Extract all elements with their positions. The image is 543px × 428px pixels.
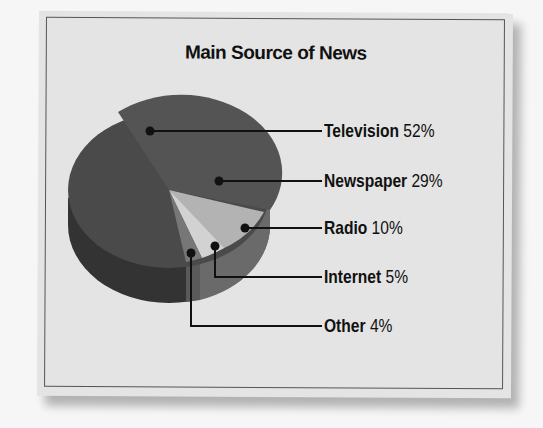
label-television: Television 52% bbox=[324, 120, 435, 142]
label-other: Other 4% bbox=[324, 315, 392, 337]
label-internet: Internet 5% bbox=[324, 266, 408, 288]
label-radio: Radio 10% bbox=[324, 217, 403, 239]
pie-chart bbox=[0, 0, 543, 428]
label-newspaper: Newspaper 29% bbox=[324, 170, 443, 192]
